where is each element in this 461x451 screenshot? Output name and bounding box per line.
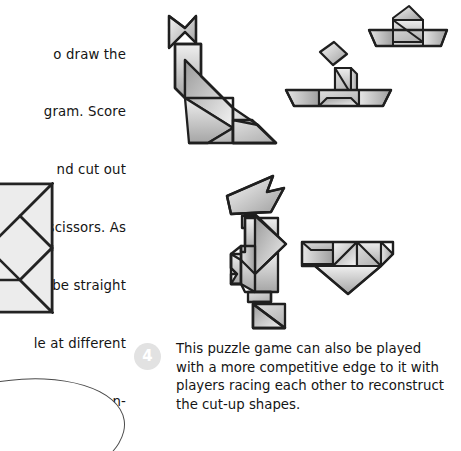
figure-house bbox=[302, 242, 393, 294]
tangram-square-diagram bbox=[0, 182, 54, 314]
figure-standing-person bbox=[227, 176, 286, 328]
figure-sailboat bbox=[286, 42, 391, 106]
step-number-text: 4 bbox=[134, 343, 161, 370]
body-text-line: nd cut out bbox=[0, 160, 126, 179]
step-item-4: 4 This puzzle game can also be played wi… bbox=[134, 340, 454, 414]
step-number-badge: 4 bbox=[134, 343, 161, 370]
figure-sea-lion bbox=[169, 16, 276, 143]
body-text-line: le at different bbox=[0, 334, 126, 353]
tip-callout-line: rages bbox=[0, 426, 112, 451]
body-text-line: gram. Score bbox=[0, 102, 126, 121]
figure-crown-boat bbox=[369, 6, 447, 46]
tangram-figures-illustration bbox=[145, 2, 461, 338]
body-text-line: o draw the bbox=[0, 45, 126, 64]
step-body-text: This puzzle game can also be played with… bbox=[176, 340, 444, 414]
